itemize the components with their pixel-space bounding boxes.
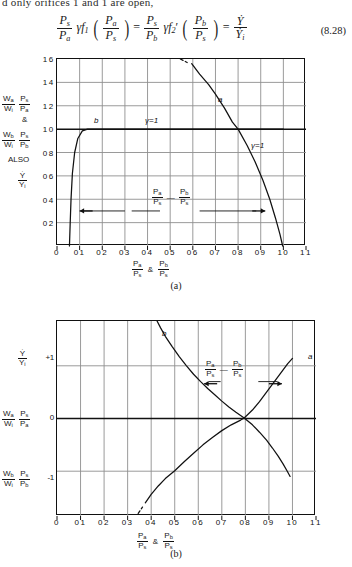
xtick-label: 0 6 — [181, 248, 203, 257]
chart-b-ytick-plus1: +1 — [40, 353, 54, 362]
chart-a-inner-annotation: PaPs — PbPs — [152, 188, 190, 207]
xtick-label: 0 9 — [249, 248, 271, 257]
xtick-label: 0 8 — [233, 518, 255, 527]
chart-a-ylabel-amp: & — [22, 115, 27, 124]
chart-a-caption: (a) — [0, 280, 352, 291]
chart-b-caption: (b) — [0, 548, 352, 559]
xtick-label: 0 4 — [136, 248, 158, 257]
chart-a: WaWi PsPa & WbWi PsPb ALSO ẎẎi 1 6 1 4 1… — [0, 0, 352, 300]
xtick-label: 0 5 — [163, 518, 185, 527]
xtick-label: 0 9 — [257, 518, 279, 527]
chart-a-ylabel-wb: WbWi PsPb — [2, 131, 30, 150]
chart-a-curve-label-a: a — [218, 95, 222, 104]
xtick-label: 1 1 — [294, 248, 316, 257]
xtick-label: 1 1 — [304, 518, 326, 527]
chart-b-ylabel-ydot: ẎẎi — [18, 350, 27, 368]
xtick-label: 0 1 — [69, 518, 91, 527]
xtick-label: 0 8 — [226, 248, 248, 257]
chart-b-curve-label-a: a — [308, 352, 312, 361]
chart-b-ytick-minus1: -1 — [40, 473, 54, 482]
xtick-label: 1 0 — [280, 518, 302, 527]
chart-a-ytick-0-6: 0 6 — [32, 172, 53, 181]
chart-a-ytick-0-2: 0 2 — [32, 219, 53, 228]
chart-a-curve-label-b: b — [94, 116, 98, 125]
xtick-label: 0 6 — [186, 518, 208, 527]
xtick-label: 0 7 — [203, 248, 225, 257]
xtick-label: 0 2 — [92, 518, 114, 527]
chart-b-plot-frame — [56, 320, 315, 515]
xtick-label: 0 3 — [116, 518, 138, 527]
xtick-label: 0 2 — [90, 248, 112, 257]
figure-page: d only orifices 1 and 1 are open, Ps Pa … — [0, 0, 352, 567]
xtick-label: 0 — [45, 518, 67, 527]
xtick-label: 0 7 — [210, 518, 232, 527]
chart-a-ylabel-also: ALSO — [8, 155, 29, 164]
chart-a-x-axis-title: PaPs & PbPs — [132, 260, 169, 279]
chart-a-ytick-0-8: 0 8 — [32, 149, 53, 158]
xtick-label: 0 — [45, 248, 67, 257]
chart-a-gamma-label-2: γ=1 — [251, 141, 264, 150]
chart-b-curve-label-b: b — [162, 329, 166, 338]
chart-a-plot-frame — [56, 58, 305, 245]
chart-a-ytick-1-0: 1 0 — [32, 125, 53, 134]
xtick-label: 0 1 — [68, 248, 90, 257]
chart-a-ylabel-wa: WaWi PsPa — [2, 95, 30, 114]
xtick-label: 1 0 — [271, 248, 293, 257]
chart-b-ylabel-wb: WbWi PsPb — [2, 470, 30, 489]
chart-a-gamma-label-1: γ=1 — [145, 116, 158, 125]
chart-b-inner-annotation: PaPs — PbPs — [205, 360, 243, 379]
chart-b: ẎẎi WaWi PsPa WbWi PsPb +1 0 -1 00 10 20… — [0, 300, 352, 567]
chart-a-ytick-0-4: 0 4 — [32, 196, 53, 205]
xtick-label: 0 5 — [158, 248, 180, 257]
chart-a-ylabel-ydot: ẎẎi — [18, 172, 27, 190]
xtick-label: 0 4 — [139, 518, 161, 527]
chart-a-ytick-1-4: 1 4 — [32, 78, 53, 87]
chart-b-ylabel-wa: WaWi PsPa — [2, 410, 30, 429]
chart-a-ytick-1-6: 1 6 — [32, 55, 53, 64]
chart-a-ytick-1-2: 1 2 — [32, 102, 53, 111]
xtick-label: 0 3 — [113, 248, 135, 257]
chart-b-ytick-zero: 0 — [40, 413, 54, 422]
